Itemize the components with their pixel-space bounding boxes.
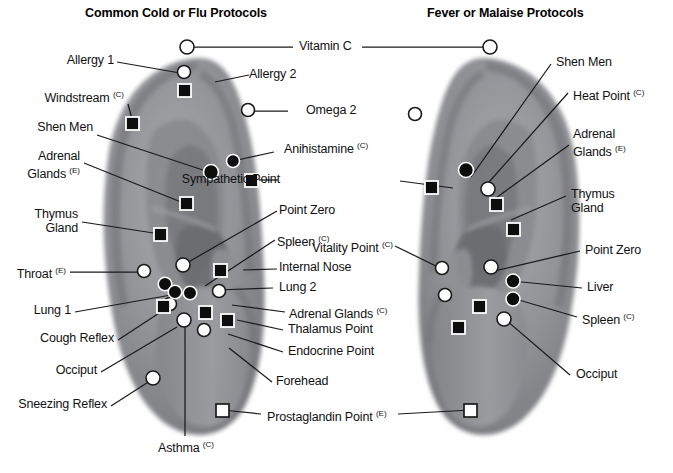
marker-omega-right — [409, 108, 422, 121]
marker-forehead — [198, 324, 211, 337]
marker-asthma — [177, 313, 191, 327]
marker-vitamin-c-right — [483, 40, 497, 54]
marker-vitality-point — [436, 262, 449, 275]
label-heat-point: Heat Point (C) — [573, 86, 644, 104]
label-spleen-right: Spleen (C) — [582, 310, 634, 328]
label-lung-2: Lung 2 — [279, 281, 316, 295]
label-thalamus-point: Thalamus Point — [288, 323, 373, 337]
marker-internal-nose — [183, 286, 197, 300]
label-endocrine-point: Endocrine Point — [288, 345, 374, 359]
marker-prostaglandin-right — [464, 404, 477, 417]
marker-point-zero-left — [176, 258, 190, 272]
label-occiput-left: Occiput — [0, 364, 97, 378]
label-sneezing-reflex: Sneezing Reflex — [0, 398, 107, 412]
marker-omega-2 — [242, 104, 255, 117]
label-liver: Liver — [587, 281, 613, 295]
marker-liver — [506, 274, 520, 288]
label-omega-2: Omega 2 — [306, 104, 356, 118]
left-ear-image — [104, 58, 265, 435]
marker-adrenal-glands-e-left — [180, 197, 193, 210]
marker-shen-men-right — [459, 163, 474, 178]
marker-thymus-gland-left — [154, 228, 167, 241]
label-cough-reflex: Cough Reflex — [0, 332, 114, 346]
marker-heat-point — [481, 182, 495, 196]
label-adrenal-glands-e-left: AdrenalGlands (E) — [0, 150, 80, 181]
marker-sneezing-reflex — [146, 371, 160, 385]
left-chart-title: Common Cold or Flu Protocols — [85, 6, 267, 20]
label-adrenal-glands-e-right: AdrenalGlands (E) — [573, 128, 626, 159]
label-shen-men-left: Shen Men — [0, 121, 93, 135]
marker-allergy-1 — [178, 66, 191, 79]
marker-allergy-2 — [178, 84, 191, 97]
marker-windstream — [126, 117, 139, 130]
marker-spleen-left — [168, 285, 182, 299]
marker-spleen-sq-left — [214, 264, 227, 277]
marker-throat — [138, 265, 151, 278]
label-point-zero-right: Point Zero — [585, 244, 641, 258]
right-chart-title: Fever or Malaise Protocols — [427, 6, 584, 20]
label-thymus-gland-left: ThymusGland — [0, 208, 78, 235]
label-vitality-point: Vitality Point (C) — [285, 238, 393, 256]
label-adrenal-glands-c-left: Adrenal Glands (C) — [289, 304, 388, 322]
label-allergy-2: Allergy 2 — [249, 68, 296, 82]
marker-prostaglandin-left — [216, 404, 229, 417]
marker-lung-2 — [213, 285, 226, 298]
marker-occiput-right — [497, 312, 511, 326]
label-prostaglandin-point: Prostaglandin Point (E) — [267, 407, 387, 425]
label-vitamin-c: Vitamin C — [299, 40, 352, 54]
marker-sympathetic-point-right — [425, 181, 438, 194]
marker-endocrine-point-right — [452, 321, 465, 334]
label-asthma: Asthma (C) — [140, 438, 232, 456]
marker-adrenal-glands-c-right — [439, 289, 452, 302]
label-thymus-gland-right: ThymusGland — [571, 188, 615, 215]
marker-adrenal-glands-e-right — [490, 198, 503, 211]
label-occiput-right: Occiput — [576, 368, 617, 382]
marker-anihistamine — [227, 155, 240, 168]
ear-points-diagram: Common Cold or Flu Protocols Fever or Ma… — [0, 0, 673, 473]
label-lung-1: Lung 1 — [0, 304, 71, 318]
marker-point-zero-right — [484, 260, 498, 274]
marker-thalamus-point-right — [473, 300, 486, 313]
marker-thalamus-point-left — [221, 314, 234, 327]
marker-lung-1 — [157, 300, 170, 313]
label-shen-men-right: Shen Men — [556, 56, 612, 70]
right-ear-image — [419, 58, 580, 435]
label-throat: Throat (E) — [0, 264, 66, 282]
label-sympathetic-point-left: Sympathetic Point — [170, 173, 280, 187]
marker-thymus-gland-right — [507, 223, 520, 236]
marker-vitamin-c-left — [180, 40, 194, 54]
label-anihistamine: Anihistamine (C) — [284, 139, 368, 157]
label-allergy-1: Allergy 1 — [0, 54, 114, 68]
label-internal-nose: Internal Nose — [279, 261, 351, 275]
label-forehead: Forehead — [276, 375, 328, 389]
marker-adrenal-glands-c-left — [199, 306, 212, 319]
label-windstream: Windstream (C) — [0, 88, 124, 106]
marker-spleen-right — [506, 292, 520, 306]
label-point-zero-left: Point Zero — [279, 204, 335, 218]
